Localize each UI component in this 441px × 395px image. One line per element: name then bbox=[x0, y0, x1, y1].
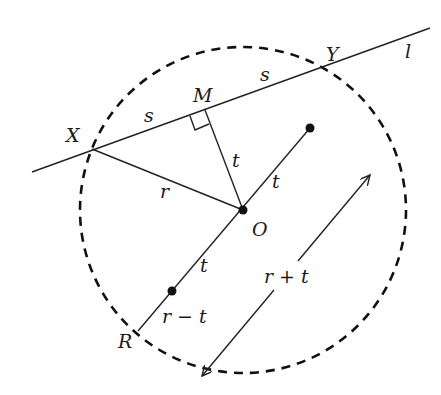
label-t-upper: t bbox=[272, 170, 280, 192]
arrow-r-plus-t-upper bbox=[298, 175, 370, 261]
label-O: O bbox=[252, 218, 268, 240]
line-l bbox=[32, 28, 430, 172]
arrow-r-plus-t-lower bbox=[202, 290, 274, 376]
label-r: r bbox=[160, 180, 171, 202]
label-s-right: s bbox=[260, 63, 270, 85]
label-r-minus-t: r − t bbox=[162, 305, 207, 327]
point-lower bbox=[168, 287, 177, 296]
label-l: l bbox=[405, 40, 411, 62]
label-t-MO: t bbox=[232, 149, 240, 171]
label-M: M bbox=[192, 84, 213, 106]
label-t-lower: t bbox=[200, 254, 208, 276]
geometry-diagram: X Y M O R l s s r t t t r + t r − t bbox=[0, 0, 441, 395]
point-upper bbox=[306, 124, 315, 133]
label-X: X bbox=[64, 124, 81, 146]
point-O bbox=[239, 206, 248, 215]
right-angle-marker bbox=[190, 116, 209, 130]
label-s-left: s bbox=[144, 104, 154, 126]
label-r-plus-t: r + t bbox=[264, 265, 309, 287]
label-R: R bbox=[117, 330, 132, 352]
